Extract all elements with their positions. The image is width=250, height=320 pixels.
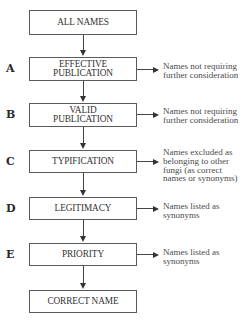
connector-line — [83, 266, 84, 284]
step-note-c: Names excluded as belonging to other fun… — [163, 148, 238, 183]
step-note-e: Names listed as synonyms — [163, 248, 220, 266]
step-note-d: Names listed as synonyms — [163, 202, 220, 220]
step-letter-a: A — [6, 62, 15, 75]
arrow-right-icon — [153, 159, 159, 165]
connector-line — [83, 173, 84, 191]
effective-publication-box: EFFECTIVE PUBLICATION — [29, 57, 137, 81]
step-label: LEGITIMACY — [55, 204, 112, 214]
connector-line — [83, 220, 84, 237]
step-letter-e: E — [6, 248, 14, 261]
connector-line — [83, 127, 84, 144]
arrow-right-icon — [153, 252, 159, 258]
arrow-down-icon — [80, 190, 86, 196]
step-letter-d: D — [6, 202, 16, 215]
step-note-b: Names not requiring further consideratio… — [163, 107, 238, 125]
connector-line — [83, 35, 84, 51]
arrow-down-icon — [80, 50, 86, 56]
step-letter-b: B — [6, 108, 15, 121]
all-names-box: ALL NAMES — [29, 10, 137, 35]
correct-name-box: CORRECT NAME — [29, 290, 137, 313]
typification-box: TYPIFICATION — [29, 150, 137, 173]
legitimacy-box: LEGITIMACY — [29, 197, 137, 220]
all-names-label: ALL NAMES — [57, 18, 109, 28]
step-label-line2: PUBLICATION — [53, 115, 113, 125]
step-label-line2: PUBLICATION — [53, 69, 113, 79]
step-label: PRIORITY — [62, 250, 104, 260]
connector-line — [83, 81, 84, 97]
arrow-down-icon — [80, 143, 86, 149]
arrow-down-icon — [80, 96, 86, 102]
arrow-down-icon — [80, 283, 86, 289]
step-label: TYPIFICATION — [52, 157, 114, 167]
valid-publication-box: VALID PUBLICATION — [29, 103, 137, 127]
correct-name-label: CORRECT NAME — [47, 297, 118, 307]
arrow-down-icon — [80, 236, 86, 242]
priority-box: PRIORITY — [29, 243, 137, 266]
arrow-right-icon — [153, 67, 159, 73]
step-letter-c: C — [6, 155, 15, 168]
arrow-right-icon — [153, 112, 159, 118]
arrow-right-icon — [153, 206, 159, 212]
step-note-a: Names not requiring further consideratio… — [163, 62, 238, 80]
